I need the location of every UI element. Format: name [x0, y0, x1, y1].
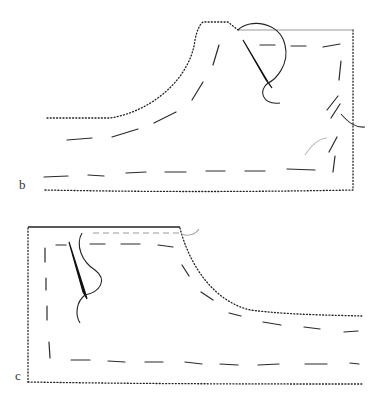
figure-b-label: b	[19, 177, 26, 193]
figure-c-needle-icon	[69, 242, 87, 299]
figure-b-thread-faint	[305, 138, 327, 155]
figure-c-running-stitches	[45, 244, 359, 365]
figure-b-bottom-edge	[45, 190, 353, 192]
figure-c-label: c	[15, 368, 21, 384]
figure-c	[28, 227, 362, 384]
figure-b-thread	[238, 23, 286, 103]
figure-c-curved-edge	[180, 228, 362, 316]
figure-b-running-stitches	[44, 44, 341, 177]
figure-b	[44, 22, 365, 192]
figure-b-outline	[47, 22, 238, 118]
figure-c-bottom-edge	[28, 382, 362, 384]
sewing-diagram	[0, 0, 382, 397]
figure-b-needle-icon	[243, 40, 272, 88]
figure-c-thread-tail	[182, 229, 199, 235]
